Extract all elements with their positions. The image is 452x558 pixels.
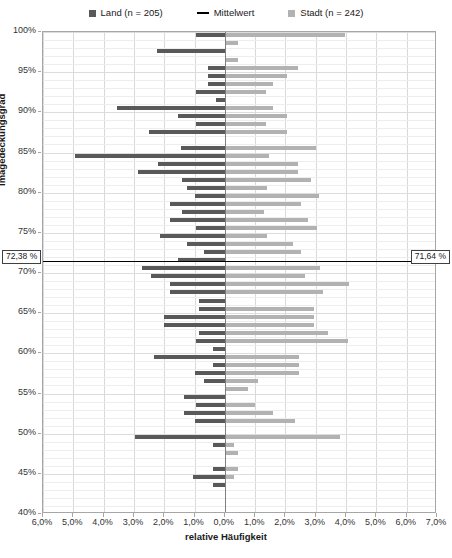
bar-stadt bbox=[225, 66, 298, 70]
bar-stadt bbox=[225, 282, 349, 286]
bar-land bbox=[195, 419, 225, 423]
bar-land bbox=[160, 234, 225, 238]
horizontal-gridline bbox=[43, 394, 435, 395]
bar-land bbox=[196, 33, 225, 37]
bar-land bbox=[178, 114, 225, 118]
bar-stadt bbox=[225, 33, 345, 37]
bar-stadt bbox=[225, 186, 267, 190]
y-axis-tick-mark bbox=[38, 433, 41, 434]
bar-land bbox=[182, 178, 224, 182]
x-axis-tick-mark bbox=[436, 513, 437, 517]
y-axis-tick-label: 60% bbox=[0, 346, 36, 356]
bar-land bbox=[195, 371, 225, 375]
bar-land bbox=[164, 323, 225, 327]
bar-land bbox=[199, 299, 225, 303]
bar-land bbox=[170, 202, 225, 206]
bar-stadt bbox=[225, 411, 273, 415]
legend-label-stadt: Stadt (n = 242) bbox=[300, 8, 363, 18]
x-axis-tick-label: 6,0% bbox=[32, 517, 53, 527]
bar-stadt bbox=[225, 443, 234, 447]
bar-stadt bbox=[225, 250, 301, 254]
bar-stadt bbox=[225, 226, 317, 230]
y-axis-tick-label: 45% bbox=[0, 467, 36, 477]
horizontal-gridline bbox=[43, 458, 435, 459]
x-axis-tick-mark bbox=[194, 513, 195, 517]
bar-stadt bbox=[225, 435, 340, 439]
legend-item-mittelwert: Mittelwert bbox=[197, 8, 255, 18]
bar-land bbox=[213, 443, 225, 447]
x-axis-title: relative Häufigkeit bbox=[0, 531, 452, 542]
bar-stadt bbox=[225, 266, 320, 270]
x-axis-tick-mark bbox=[72, 513, 73, 517]
x-axis-tick-mark bbox=[224, 513, 225, 517]
y-axis-tick-label: 70% bbox=[0, 266, 36, 276]
bar-land bbox=[213, 483, 225, 487]
square-swatch-icon bbox=[89, 10, 96, 17]
bar-stadt bbox=[225, 210, 264, 214]
horizontal-gridline bbox=[43, 482, 435, 483]
y-axis-tick-label: 40% bbox=[0, 507, 36, 517]
bar-land bbox=[181, 146, 225, 150]
bar-stadt bbox=[225, 451, 239, 455]
bar-land bbox=[196, 90, 225, 94]
horizontal-gridline bbox=[43, 426, 435, 427]
bar-land bbox=[193, 475, 225, 479]
y-axis-tick-label: 85% bbox=[0, 146, 36, 156]
x-axis-tick-label: 6,0% bbox=[395, 517, 416, 527]
mean-callout-stadt: 71,64 % bbox=[411, 250, 450, 264]
x-axis-tick-mark bbox=[315, 513, 316, 517]
legend-label-land: Land (n = 205) bbox=[101, 8, 163, 18]
bar-land bbox=[199, 307, 225, 311]
zero-axis-line bbox=[225, 32, 226, 512]
y-axis-tick-mark bbox=[38, 232, 41, 233]
chart-container: Land (n = 205) Mittelwert Stadt (n = 242… bbox=[0, 0, 452, 558]
square-swatch-icon bbox=[288, 10, 295, 17]
bar-land bbox=[204, 250, 225, 254]
y-axis-tick-label: 100% bbox=[0, 25, 36, 35]
horizontal-gridline bbox=[43, 40, 435, 41]
mean-callout-land: 72,38 % bbox=[2, 250, 41, 264]
bar-land bbox=[204, 379, 225, 383]
bar-stadt bbox=[225, 154, 269, 158]
x-axis-tick-mark bbox=[103, 513, 104, 517]
bar-land bbox=[213, 347, 225, 351]
bar-stadt bbox=[225, 467, 239, 471]
bar-stadt bbox=[225, 315, 314, 319]
x-axis-tick-label: 1,0% bbox=[244, 517, 265, 527]
x-axis-tick-label: 5,0% bbox=[62, 517, 83, 527]
bar-land bbox=[184, 411, 225, 415]
y-axis-tick-mark bbox=[38, 152, 41, 153]
bar-land bbox=[196, 122, 225, 126]
x-axis-tick-label: 2,0% bbox=[274, 517, 295, 527]
mean-line bbox=[43, 261, 435, 262]
bar-stadt bbox=[225, 202, 301, 206]
horizontal-gridline bbox=[43, 506, 435, 507]
bar-land bbox=[164, 315, 225, 319]
x-axis-tick-mark bbox=[375, 513, 376, 517]
x-axis-tick-label: 3,0% bbox=[305, 517, 326, 527]
bar-land bbox=[184, 395, 225, 399]
bar-stadt bbox=[225, 178, 311, 182]
y-axis-tick-label: 80% bbox=[0, 186, 36, 196]
y-axis-tick-label: 50% bbox=[0, 427, 36, 437]
legend-label-mittelwert: Mittelwert bbox=[214, 8, 255, 18]
bar-land bbox=[117, 106, 225, 110]
bar-stadt bbox=[225, 218, 308, 222]
x-axis-tick-mark bbox=[42, 513, 43, 517]
horizontal-gridline bbox=[43, 48, 435, 49]
horizontal-gridline bbox=[43, 297, 435, 298]
legend-item-stadt: Stadt (n = 242) bbox=[288, 8, 363, 18]
bar-land bbox=[182, 210, 224, 214]
bar-land bbox=[170, 282, 225, 286]
bar-stadt bbox=[225, 363, 299, 367]
bar-land bbox=[208, 82, 225, 86]
bar-stadt bbox=[225, 307, 314, 311]
y-axis-tick-mark bbox=[38, 272, 41, 273]
bar-stadt bbox=[225, 58, 239, 62]
horizontal-gridline bbox=[43, 442, 435, 443]
horizontal-gridline bbox=[43, 257, 435, 258]
y-axis-tick-mark bbox=[38, 473, 41, 474]
bar-stadt bbox=[225, 475, 234, 479]
bar-stadt bbox=[225, 355, 299, 359]
line-swatch-icon bbox=[197, 12, 209, 14]
